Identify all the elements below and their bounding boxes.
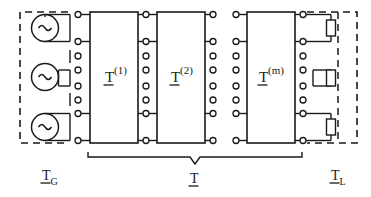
label-T-main: T [190,171,199,186]
label-T-cascade: T [189,171,200,186]
terminal-column-Tm-in [233,12,247,144]
load-resistor-2 [313,70,336,86]
terminal-column-Tm-out [295,12,306,144]
block-T2-label-T: T [171,69,180,85]
diagram-canvas: T (1) T (2) [0,0,371,197]
ac-source-1 [32,15,71,42]
label-T-G: T G [41,168,58,187]
block-Tm-label-superscript: (m) [268,64,284,77]
ac-source-2 [32,64,71,91]
load-resistor-1 [306,15,336,42]
label-TL-subscript: L [340,176,346,187]
terminal-column-generator-out [75,12,90,144]
load-resistor-3 [306,114,336,141]
block-T1-label-T: T [105,69,114,85]
block-T2: T (2) [157,12,205,143]
cascade-brace [88,152,302,164]
network-schematic: T (1) T (2) [0,0,371,197]
block-T1-label-superscript: (1) [114,64,127,77]
block-Tm-label-T: T [259,69,268,85]
block-T1: T (1) [90,12,138,143]
block-Tm: T (m) [247,12,295,143]
terminal-column-T1-out [138,12,157,144]
block-T2-label-superscript: (2) [180,64,193,77]
ac-source-3 [32,114,71,141]
terminal-column-T2-out [205,12,216,144]
label-T-L: T L [330,168,346,187]
label-TG-subscript: G [51,176,58,187]
